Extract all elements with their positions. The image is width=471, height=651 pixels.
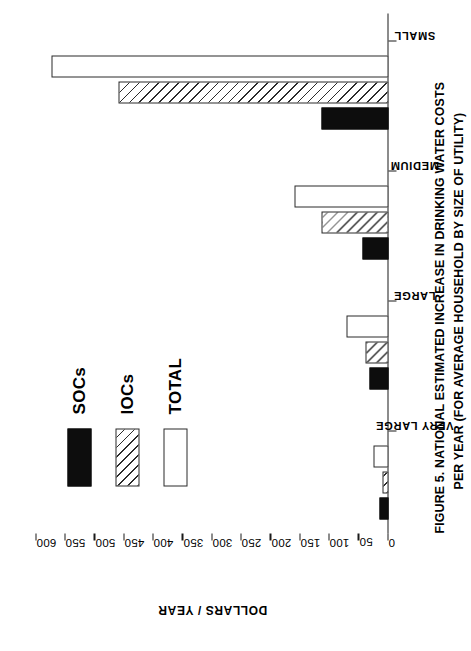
bar-group-small: SMALL [36, 13, 388, 143]
legend-label-total: TOTAL [165, 357, 185, 414]
value-axis-tick [181, 533, 182, 540]
bar-large-iocs [365, 341, 388, 363]
diagonal-hatch-swatch-icon [115, 428, 139, 486]
value-axis-tick-label: 300 [212, 536, 232, 548]
figure-caption: FIGURE 5. NATIONAL ESTIMATED INCREASE IN… [430, 13, 468, 533]
bar-small-socs [321, 107, 388, 129]
solid-black-swatch-icon [67, 428, 91, 486]
value-axis-tick-label: 400 [153, 536, 173, 548]
category-label-small: SMALL [393, 29, 434, 41]
value-axis-tick [93, 533, 94, 540]
legend-item-total: TOTAL [158, 357, 192, 486]
figure-stage: DOLLARS / YEAR 0501001502002503003504004… [0, 0, 471, 651]
value-axis-tick-label: 200 [271, 536, 291, 548]
figure-caption-line-2: PER YEAR (FOR AVERAGE HOUSEHOLD BY SIZE … [449, 13, 468, 533]
bar-small-total [51, 55, 388, 77]
bar-small-iocs [118, 81, 388, 103]
value-axis-tick [269, 533, 270, 540]
legend-label-iocs: IOCs [117, 373, 137, 414]
legend-item-socs: SOCs [62, 357, 96, 486]
value-axis-tick-label: 500 [95, 536, 115, 548]
value-axis-tick-label: 50 [359, 536, 372, 548]
bar-large-socs [369, 367, 388, 389]
value-axis-tick-label: 0 [388, 536, 395, 548]
value-axis-tick-label: 350 [183, 536, 203, 548]
bar-medium-socs [362, 237, 388, 259]
value-axis-tick-label: 250 [241, 536, 261, 548]
bar-medium-total [294, 185, 388, 207]
legend-label-socs: SOCs [69, 367, 89, 415]
bar-group-medium: MEDIUM [36, 143, 388, 273]
legend-item-iocs: IOCs [110, 357, 144, 486]
value-axis-title: DOLLARS / YEAR [157, 602, 267, 616]
bar-large-total [346, 315, 388, 337]
bar-very-large-iocs [382, 471, 388, 493]
white-outline-swatch-icon [163, 428, 187, 486]
value-axis-tick-label: 450 [124, 536, 144, 548]
value-axis-tick [357, 533, 358, 540]
bar-medium-iocs [321, 211, 388, 233]
category-label-large: LARGE [393, 289, 435, 301]
figure-caption-line-1: FIGURE 5. NATIONAL ESTIMATED INCREASE IN… [430, 13, 449, 533]
bar-very-large-socs [379, 497, 388, 519]
value-axis-tick-label: 150 [300, 536, 320, 548]
bar-very-large-total [373, 445, 388, 467]
value-axis-tick-label: 600 [36, 536, 56, 548]
value-axis-tick-label: 100 [329, 536, 349, 548]
chart-legend: SOCs IOCs TOTAL [62, 357, 206, 486]
value-axis-tick-label: 550 [65, 536, 85, 548]
